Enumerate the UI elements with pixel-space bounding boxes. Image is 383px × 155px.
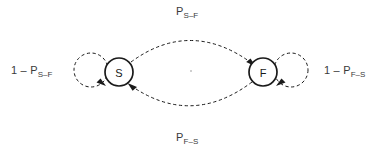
label-self-loop-f: 1 – PF–S [324,64,365,76]
label-left-base: 1 – P [11,64,38,76]
edge-f-to-s [130,82,252,106]
label-transition-s-to-f: PS–F [176,5,198,17]
label-bottom-base: P [176,131,184,143]
label-right-subscript: F–S [351,70,366,79]
scan-artifact-speck [190,70,192,72]
edge-s-to-f [131,40,253,64]
arrowhead-f-to-s [128,83,138,91]
state-transition-diagram: S F PS–F PF–S 1 – PS–F 1 – PF–S [0,0,383,155]
label-right-base: 1 – P [324,64,351,76]
label-transition-f-to-s: PF–S [176,131,198,143]
label-bottom-subscript: F–S [184,137,199,146]
label-self-loop-s: 1 – PS–F [11,64,52,76]
label-left-subscript: S–F [38,70,53,79]
node-s-label: S [115,67,122,79]
label-top-base: P [176,5,184,17]
arrowhead-s-self-loop [97,79,107,87]
node-f-label: F [260,67,267,79]
label-top-subscript: S–F [184,11,199,20]
